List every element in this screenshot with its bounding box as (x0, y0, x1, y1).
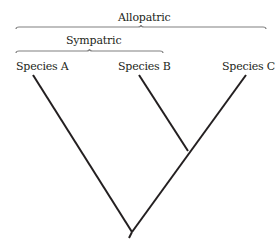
allopatric-bracket (16, 25, 266, 29)
tree-graphic (0, 0, 280, 247)
branch-species-c-to-root (132, 75, 246, 232)
species-b-label: Species B (118, 61, 171, 72)
sympatric-label: Sympatric (66, 35, 121, 46)
species-a-label: Species A (16, 61, 69, 72)
sympatric-bracket (16, 49, 163, 53)
allopatric-label: Allopatric (118, 12, 171, 23)
branch-species-a (33, 75, 132, 232)
root-stem (129, 232, 132, 238)
branch-species-b (139, 75, 188, 151)
phylogenetic-tree-diagram: Allopatric Sympatric Species A Species B… (0, 0, 280, 247)
species-c-label: Species C (222, 61, 275, 72)
